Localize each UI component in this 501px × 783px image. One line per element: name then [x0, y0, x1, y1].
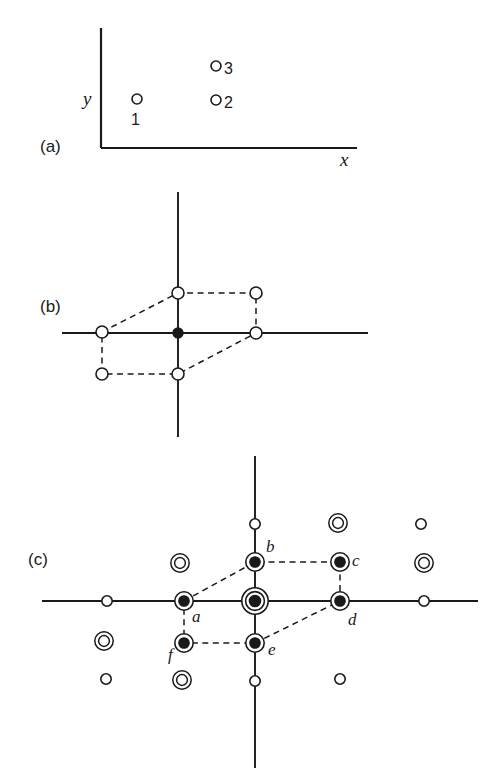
panel-c-point-f: [175, 634, 193, 652]
panel-a-point-label-2: 2: [224, 94, 233, 111]
panel-c-point-label-a: a: [192, 607, 201, 626]
panel-c-lattice-point-4: [101, 674, 111, 684]
panel-a-point-label-1: 1: [131, 111, 140, 128]
panel-c-point-label-b: b: [266, 537, 275, 556]
panel-c-point-d: [331, 592, 349, 610]
panel-b-point-v6: [172, 287, 184, 299]
panel-c-lattice-point-3: [250, 676, 260, 686]
panel-c-lattice-point-0: [102, 596, 112, 606]
panel-b-point-v5: [250, 287, 262, 299]
panel-c-lattice-point-1: [419, 596, 429, 606]
figure-root: xy123(a)(b)abcdef(c): [0, 0, 501, 783]
panel-c-point-c: [331, 553, 349, 571]
panel-a-point-label-3: 3: [224, 60, 233, 77]
panel-c-lattice-point-7: [171, 554, 189, 572]
panel-a-point-1: [132, 94, 142, 104]
panel-b-point-v1: [96, 326, 108, 338]
figure-canvas: xy123(a)(b)abcdef(c): [0, 0, 501, 783]
panel-c-lattice-point-6: [416, 519, 426, 529]
panel-c-point-e: [246, 634, 264, 652]
panel-c-lattice-point-2: [250, 519, 260, 529]
panel-c-lattice-point-8: [329, 514, 347, 532]
panel-c-point-label-e: e: [268, 640, 276, 659]
panel-b-point-origin: [173, 328, 183, 338]
panel-label-a: (a): [40, 137, 61, 156]
panel-c-lattice-point-5: [335, 674, 345, 684]
panel-a-y-axis-label: y: [81, 88, 92, 109]
panel-label-b: (b): [40, 297, 61, 316]
panel-c-lattice-point-9: [415, 554, 433, 572]
panel-b-point-v4: [250, 327, 262, 339]
panel-c-point-label-c: c: [352, 551, 360, 570]
panel-a-point-3: [211, 61, 221, 71]
panel-c-point-b: [246, 553, 264, 571]
panel-c-point-a: [175, 592, 193, 610]
panel-a-x-axis-label: x: [339, 149, 349, 170]
panel-c-lattice-point-10: [95, 632, 113, 650]
panel-c-point-label-f: f: [168, 645, 175, 664]
panel-a-point-2: [211, 95, 221, 105]
panel-label-c: (c): [28, 550, 48, 569]
panel-c-point-origin: [242, 588, 268, 614]
panel-c-lattice-point-11: [173, 671, 191, 689]
panel-b-point-v3: [172, 368, 184, 380]
panel-b-point-v2: [96, 368, 108, 380]
panel-c-point-label-d: d: [348, 610, 357, 629]
